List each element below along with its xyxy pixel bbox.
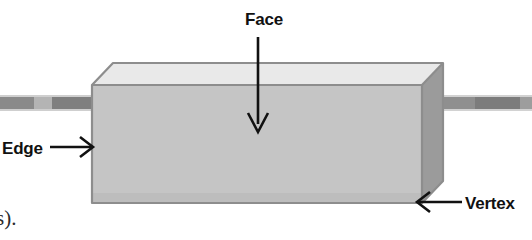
callout-vertex-label: Vertex (465, 194, 516, 213)
callout-face-label: Face (245, 10, 283, 29)
prism-diagram: Face Edge Vertex s). (0, 0, 532, 240)
callout-vertex: Vertex (417, 192, 516, 213)
rectangular-prism (92, 63, 443, 203)
callout-edge-label: Edge (2, 139, 43, 158)
page-text-fragment: s). (0, 206, 16, 230)
prism-front-face-shading (92, 193, 422, 203)
scan-artifact-right-bar (443, 95, 532, 111)
prism-right-face (422, 63, 443, 203)
scan-artifact-left-bar (0, 95, 92, 111)
figure-canvas: Face Edge Vertex s). (0, 0, 532, 240)
prism-top-face (92, 63, 443, 85)
callout-edge: Edge (2, 137, 93, 158)
